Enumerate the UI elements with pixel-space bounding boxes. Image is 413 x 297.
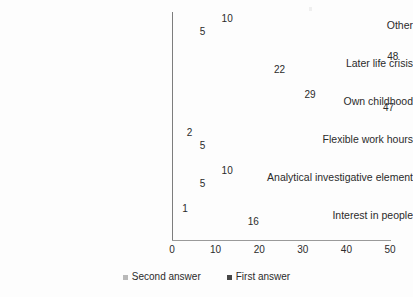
- bar-value-label: 10: [217, 12, 233, 23]
- category-label: Flexible work hours: [245, 133, 413, 145]
- bar-value-label: 1: [177, 202, 188, 213]
- bar-value-label: 5: [195, 25, 206, 36]
- bar-second-answer: 48: [173, 50, 382, 61]
- bar-first-answer: 47: [173, 101, 378, 112]
- bar-value-label: 16: [243, 215, 259, 226]
- bar-first-answer: 5: [173, 177, 195, 188]
- x-axis-tick-label: 50: [384, 244, 395, 256]
- chart-legend: Second answerFirst answer: [0, 271, 413, 283]
- bar-value-label: 29: [299, 88, 315, 99]
- legend-item-second-answer[interactable]: Second answer: [123, 271, 201, 283]
- category-label: Analytical investigative element: [245, 171, 413, 183]
- category-row: Interest in people116: [0, 202, 413, 240]
- category-row: Flexible work hours25: [0, 126, 413, 164]
- x-axis-tick-label: 0: [169, 244, 175, 256]
- bar-value-label: 10: [217, 164, 233, 175]
- bar-value-label: 48: [382, 50, 398, 61]
- x-axis-tick-label: 10: [210, 244, 221, 256]
- bar-first-answer: 5: [173, 139, 195, 150]
- x-axis-tick-label: 40: [341, 244, 352, 256]
- bar-value-label: 5: [195, 177, 206, 188]
- bar-value-label: 2: [182, 126, 193, 137]
- category-row: Other105: [0, 12, 413, 50]
- bar-chart-figure: Other105Later life crisis4822Own childho…: [0, 0, 413, 297]
- bar-second-answer: 10: [173, 12, 217, 23]
- category-row: Later life crisis4822: [0, 50, 413, 88]
- bar-value-label: 5: [195, 139, 206, 150]
- category-row: Analytical investigative element105: [0, 164, 413, 202]
- x-axis-line: [172, 240, 391, 241]
- bar-first-answer: 16: [173, 215, 243, 226]
- category-row: Own childhood2947: [0, 88, 413, 126]
- category-label: Interest in people: [245, 209, 413, 221]
- legend-swatch-icon: [123, 275, 128, 280]
- bar-first-answer: 22: [173, 63, 269, 74]
- x-axis-tick-label: 30: [297, 244, 308, 256]
- bar-second-answer: 10: [173, 164, 217, 175]
- bar-value-label: 22: [269, 63, 285, 74]
- bar-second-answer: 29: [173, 88, 299, 99]
- x-axis-tick-label: 20: [254, 244, 265, 256]
- bar-value-label: 47: [378, 101, 394, 112]
- legend-item-first-answer[interactable]: First answer: [227, 271, 290, 283]
- bar-second-answer: 1: [173, 202, 177, 213]
- legend-label: First answer: [236, 271, 290, 283]
- bar-second-answer: 2: [173, 126, 182, 137]
- legend-swatch-icon: [227, 275, 232, 280]
- scan-artifact-speck: [309, 7, 312, 11]
- legend-label: Second answer: [132, 271, 201, 283]
- bar-first-answer: 5: [173, 25, 195, 36]
- category-label: Other: [245, 19, 413, 31]
